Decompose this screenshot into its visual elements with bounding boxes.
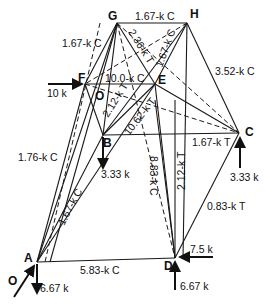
load-label-D-horizontal: 7.5 k [190,243,214,255]
load-label-A-origin: O [8,274,17,288]
node-label-C: C [245,125,254,139]
loads [14,84,240,297]
load-label-A-vertical: 6.67 k [40,282,69,294]
node-label-A: A [24,251,33,265]
load-label-B: 3.33 k [101,168,130,180]
node-label-H: H [190,7,199,21]
force-label-ED2: 2.12-k T [175,151,187,190]
force-label-GF: 1.67-k C [62,37,102,49]
load-label-C: 3.33 k [230,171,259,183]
node-label-O: O [95,89,104,103]
member-EC [155,84,239,133]
node-label-D: D [164,259,173,273]
member-BC [103,133,239,135]
force-label-CD: 0.83-k T [207,200,246,212]
force-label-FE: 10.0-k C [105,72,145,84]
force-label-BA: 1.67-k C [55,186,84,227]
load-label-F: 10 k [47,87,68,99]
node-label-F: F [78,71,85,85]
node-label-B: B [103,136,112,150]
member-HC [187,23,239,133]
node-label-G: G [108,9,117,23]
load-label-D-vertical: 6.67 k [180,280,209,292]
member-HD [183,23,187,258]
force-label-GH: 1.67-k C [135,10,175,22]
force-label-BC: 1.67-k T [192,136,231,148]
dashed-member-FA [45,23,100,262]
member-FA [37,84,85,262]
force-label-AD: 5.83-k C [80,264,120,276]
force-label-ED: 8.83-k C [148,156,160,196]
node-label-E: E [158,73,166,87]
space-truss-diagram: G H F E O B C A D 1.67-k C 1.67-k C 2.36… [0,0,267,308]
member-AD [37,258,175,262]
force-label-GA: 1.76-k C [18,151,58,163]
force-label-HC: 3.52-k C [215,65,255,77]
